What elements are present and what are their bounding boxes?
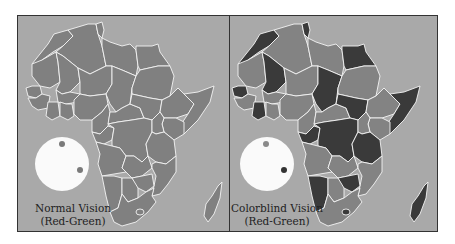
color-test-disc bbox=[240, 137, 294, 191]
africa-map-colorblind bbox=[230, 16, 438, 232]
test-dot-top bbox=[59, 141, 65, 147]
test-dot-top bbox=[263, 141, 269, 147]
caption-title: Normal Vision bbox=[28, 202, 118, 215]
normal-vision-panel: Normal Vision (Red-Green) bbox=[17, 15, 230, 232]
caption-subtitle: (Red-Green) bbox=[28, 215, 118, 228]
caption-subtitle: (Red-Green) bbox=[230, 215, 324, 228]
test-dot-bottom bbox=[281, 167, 287, 173]
caption-normal: Normal Vision (Red-Green) bbox=[28, 202, 118, 228]
test-dot-bottom bbox=[77, 167, 83, 173]
color-test-disc bbox=[35, 137, 89, 191]
colorblind-vision-panel: Colorblind Vision (Red-Green) bbox=[229, 15, 438, 232]
caption-colorblind: Colorblind Vision (Red-Green) bbox=[230, 202, 324, 228]
caption-title: Colorblind Vision bbox=[230, 202, 324, 215]
africa-map-normal bbox=[18, 16, 230, 232]
